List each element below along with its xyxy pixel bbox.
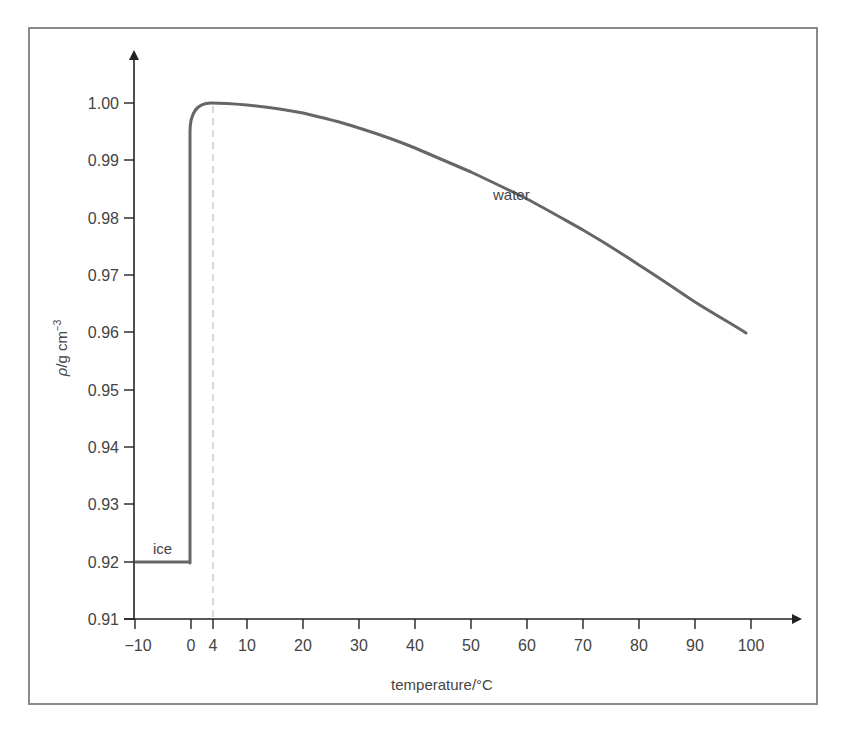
x-tick-label: 0 [187, 637, 196, 654]
y-tick-label: 0.91 [88, 611, 119, 628]
y-tick-label: 0.94 [88, 439, 119, 456]
x-tick-label: 90 [686, 637, 704, 654]
x-axis-tick-labels: −10 0 4 10 20 30 40 50 60 70 80 90 100 [124, 637, 764, 654]
x-tick-label: 80 [630, 637, 648, 654]
y-tick-label: 0.93 [88, 496, 119, 513]
x-tick-label: 100 [738, 637, 765, 654]
y-tick-label: 0.97 [88, 267, 119, 284]
y-tick-label: 0.96 [88, 324, 119, 341]
x-tick-label: 40 [406, 637, 424, 654]
water-density-curve [190, 103, 746, 563]
water-label: water [492, 186, 530, 203]
y-axis-tick-labels: 0.91 0.92 0.93 0.94 0.95 0.96 0.97 0.98 … [88, 95, 119, 628]
y-axis-title-exponent: −3 [52, 319, 63, 331]
y-axis-ticks [124, 103, 134, 619]
ice-label: ice [153, 540, 172, 557]
y-axis-title-unit: /g cm [53, 331, 70, 368]
y-axis-title: ρ/g cm−3 [52, 319, 70, 377]
x-tick-label: 30 [350, 637, 368, 654]
y-tick-label: 0.98 [88, 210, 119, 227]
x-tick-label: 20 [294, 637, 312, 654]
x-tick-label: 50 [462, 637, 480, 654]
x-axis-ticks [135, 619, 751, 629]
x-tick-label: 10 [238, 637, 256, 654]
density-chart: 0.91 0.92 0.93 0.94 0.95 0.96 0.97 0.98 … [0, 0, 847, 736]
y-tick-label: 0.92 [88, 554, 119, 571]
x-tick-label: −10 [124, 637, 151, 654]
y-tick-label: 0.99 [88, 152, 119, 169]
x-tick-label: 70 [574, 637, 592, 654]
y-tick-label: 1.00 [88, 95, 119, 112]
x-axis-title: temperature/°C [391, 676, 493, 693]
x-tick-label: 4 [209, 637, 218, 654]
y-tick-label: 0.95 [88, 382, 119, 399]
y-axis-title-symbol: ρ [53, 367, 70, 377]
x-tick-label: 60 [518, 637, 536, 654]
